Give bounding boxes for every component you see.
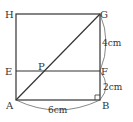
- dimension-fg: 4cm: [102, 38, 122, 48]
- label-g: G: [100, 9, 108, 20]
- label-h: H: [5, 9, 14, 20]
- label-a: A: [5, 100, 14, 111]
- label-e: E: [5, 66, 12, 77]
- label-f: F: [101, 66, 108, 77]
- right-angle-mark: [95, 95, 100, 100]
- dimension-bf: 2cm: [103, 82, 123, 92]
- geometry-figure: H G E P F A B 4cm 2cm 6cm: [0, 0, 133, 122]
- diagonal-ag: [16, 14, 100, 100]
- label-b: B: [102, 100, 109, 111]
- dimension-ab: 6cm: [48, 105, 68, 115]
- label-p: P: [38, 61, 45, 72]
